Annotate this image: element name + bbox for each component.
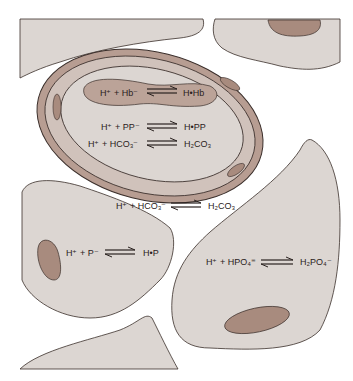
equation-right: H•P bbox=[143, 248, 159, 258]
buffer-diagram: H⁺ + Hb⁻ H•Hb H⁺ + PP⁻ H•PP H⁺ + HCO₃⁻ H… bbox=[0, 0, 353, 381]
equation-right: H₂CO₃ bbox=[208, 201, 235, 211]
equation-right: H₂PO₄⁻ bbox=[300, 257, 332, 267]
equation-left: H⁺ + PP⁻ bbox=[101, 122, 140, 132]
equation-right: H•Hb bbox=[183, 88, 204, 98]
equation-left: H⁺ + Hb⁻ bbox=[100, 88, 138, 98]
endothelial-nucleus-left bbox=[53, 94, 61, 120]
equation-left: H⁺ + HCO₃⁻ bbox=[116, 201, 166, 211]
equation-right: H•PP bbox=[184, 122, 206, 132]
equation-right: H₂CO₃ bbox=[184, 139, 211, 149]
equation-left: H⁺ + HPO₄⁼ bbox=[206, 257, 256, 267]
equation-left: H⁺ + P⁻ bbox=[66, 248, 99, 258]
equation-left: H⁺ + HCO₃⁻ bbox=[88, 139, 138, 149]
tissue-cell-bottom-left bbox=[20, 316, 178, 369]
